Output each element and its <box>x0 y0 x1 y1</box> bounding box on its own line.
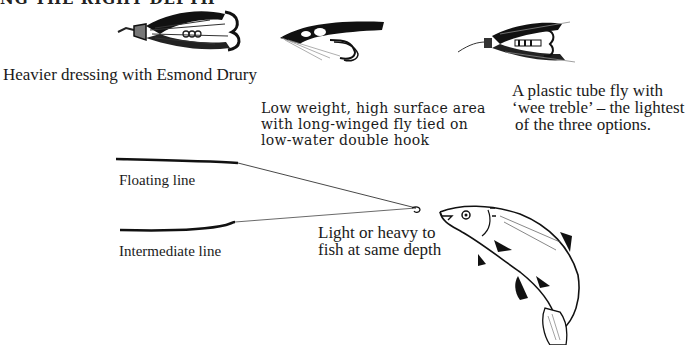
caption-line: low-water double hook <box>261 132 486 148</box>
caption-line: ‘wee treble’ – the lightest <box>512 99 684 116</box>
caption-line: with long-winged fly tied on <box>261 116 486 132</box>
floating-line-label: Floating line <box>119 172 195 189</box>
note-line: Light or heavy to <box>318 224 441 241</box>
diagram-canvas <box>0 0 688 345</box>
caption-line: A plastic tube fly with <box>512 82 684 99</box>
tube-fly-caption: A plastic tube fly with ‘wee treble’ – t… <box>512 82 684 133</box>
long-winged-caption: Low weight, high surface area with long-… <box>261 100 486 148</box>
intermediate-line-label: Intermediate line <box>119 243 221 260</box>
heavy-dressing-caption: Heavier dressing with Esmond Drury <box>3 66 257 83</box>
long-winged-fly-icon <box>280 22 384 61</box>
note-line: fish at same depth <box>318 241 441 258</box>
caption-line: of the three options. <box>512 116 684 133</box>
heavy-dressing-fly-icon <box>118 11 239 50</box>
tube-fly-icon <box>458 22 575 62</box>
caption-line: Low weight, high surface area <box>261 100 486 116</box>
depth-note: Light or heavy to fish at same depth <box>318 224 441 258</box>
salmon-illustration <box>440 206 579 345</box>
